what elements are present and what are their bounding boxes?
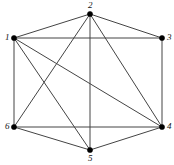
graph-vertex-1 [11, 35, 16, 40]
graph-vertex-5 [87, 147, 92, 152]
graph-edge-1-2 [14, 14, 90, 38]
graph-edge-4-5 [90, 127, 162, 150]
edges-group [14, 14, 162, 150]
graph-edge-5-6 [14, 127, 90, 150]
graph-vertex-4 [159, 124, 164, 129]
graph-edge-2-4 [90, 14, 162, 127]
graph-vertex-6 [11, 124, 16, 129]
vertex-label-5: 5 [88, 154, 93, 163]
graph-canvas [0, 0, 174, 165]
vertex-label-3: 3 [167, 33, 172, 42]
vertex-label-4: 4 [167, 122, 172, 131]
graph-vertex-2 [87, 11, 92, 16]
vertex-label-1: 1 [5, 33, 10, 42]
vertex-label-6: 6 [5, 122, 10, 131]
graph-edge-1-4 [14, 38, 162, 127]
graph-figure: 123456 [0, 0, 174, 165]
vertex-label-2: 2 [88, 1, 93, 10]
graph-edge-2-6 [14, 14, 90, 127]
graph-edge-1-5 [14, 38, 90, 150]
graph-vertex-3 [159, 35, 164, 40]
graph-edge-2-3 [90, 14, 162, 38]
